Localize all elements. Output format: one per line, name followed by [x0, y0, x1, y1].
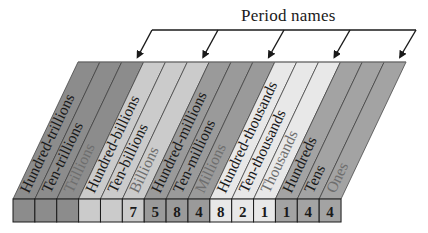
- period-arrow-icon: [400, 30, 416, 57]
- digit-cell: [35, 199, 57, 222]
- digit-value: 7: [130, 204, 138, 220]
- digit-value: 5: [151, 204, 159, 220]
- place-value-chart: Hundred-trillionsTen-trillionsTrillionsH…: [0, 0, 428, 233]
- digit-value: 1: [261, 204, 269, 220]
- digit-cell: [100, 199, 122, 222]
- period-arrow-icon: [203, 30, 218, 57]
- digit-value: 8: [173, 204, 181, 220]
- digit-row: 7584821144: [13, 199, 341, 222]
- digit-value: 4: [195, 204, 203, 220]
- period-arrow-icon: [138, 30, 152, 57]
- digit-cell: [57, 199, 79, 222]
- period-arrow-icon: [334, 30, 350, 57]
- digit-value: 4: [326, 204, 334, 220]
- period-bracket: [138, 30, 416, 57]
- digit-value: 4: [304, 204, 312, 220]
- digit-value: 8: [217, 204, 225, 220]
- digit-value: 1: [283, 204, 291, 220]
- period-arrow-icon: [269, 30, 284, 57]
- digit-cell: [13, 199, 35, 222]
- digit-cell: [79, 199, 101, 222]
- digit-value: 2: [239, 204, 247, 220]
